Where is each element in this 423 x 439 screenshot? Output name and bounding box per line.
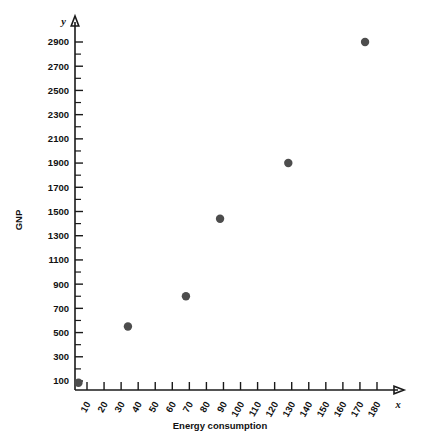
x-tick-label: 130 bbox=[280, 400, 297, 419]
x-axis-ticks bbox=[87, 382, 377, 390]
x-tick-label: 140 bbox=[297, 400, 314, 419]
x-tick-label: 150 bbox=[314, 400, 331, 419]
y-tick-label: 2700 bbox=[48, 61, 69, 72]
y-tick-label: 1300 bbox=[48, 230, 69, 241]
x-tick-label: 10 bbox=[78, 400, 93, 415]
y-tick-label: 1900 bbox=[48, 157, 69, 168]
chart-canvas: y x 100300500700900110013001500170019002… bbox=[0, 0, 423, 439]
x-tick-label: 180 bbox=[365, 400, 382, 419]
y-axis-symbol: y bbox=[59, 16, 66, 27]
x-tick-label: 60 bbox=[163, 400, 178, 415]
y-tick-label: 1100 bbox=[48, 254, 69, 265]
x-tick-label: 40 bbox=[129, 400, 144, 415]
x-tick-label: 30 bbox=[112, 400, 127, 415]
x-axis-title: Energy consumption bbox=[173, 420, 268, 431]
y-tick-label: 500 bbox=[53, 327, 69, 338]
y-tick-label: 2500 bbox=[48, 85, 69, 96]
data-point-series bbox=[74, 38, 369, 387]
y-tick-label: 900 bbox=[53, 279, 69, 290]
y-axis-title: GNP bbox=[13, 209, 24, 230]
x-tick-label: 120 bbox=[263, 400, 280, 419]
x-tick-label: 160 bbox=[331, 400, 348, 419]
x-tick-label: 70 bbox=[180, 400, 195, 415]
scatter-chart: y x 100300500700900110013001500170019002… bbox=[0, 0, 423, 439]
x-tick-label: 20 bbox=[95, 400, 110, 415]
data-point bbox=[216, 215, 224, 223]
y-tick-label: 300 bbox=[53, 351, 69, 362]
x-axis-tick-labels: 1020304050607080901001101201301401501601… bbox=[78, 400, 383, 419]
y-tick-label: 700 bbox=[53, 303, 69, 314]
data-point bbox=[74, 379, 82, 387]
data-point bbox=[361, 38, 369, 46]
y-tick-label: 1500 bbox=[48, 206, 69, 217]
x-tick-label: 110 bbox=[246, 400, 263, 419]
y-axis-tick-labels: 1003005007009001100130015001700190021002… bbox=[48, 36, 69, 386]
x-tick-label: 100 bbox=[229, 400, 246, 419]
x-tick-label: 80 bbox=[197, 400, 212, 415]
y-tick-label: 1700 bbox=[48, 182, 69, 193]
y-tick-label: 2300 bbox=[48, 109, 69, 120]
data-point bbox=[284, 159, 292, 167]
data-point bbox=[182, 292, 190, 300]
x-tick-label: 170 bbox=[348, 400, 365, 419]
data-point bbox=[124, 322, 132, 330]
x-axis-symbol: x bbox=[394, 399, 400, 410]
y-tick-label: 100 bbox=[53, 375, 69, 386]
y-axis-major-ticks bbox=[75, 42, 83, 381]
x-tick-label: 90 bbox=[214, 400, 229, 415]
y-tick-label: 2900 bbox=[48, 36, 69, 47]
y-tick-label: 2100 bbox=[48, 133, 69, 144]
x-tick-label: 50 bbox=[146, 400, 161, 415]
